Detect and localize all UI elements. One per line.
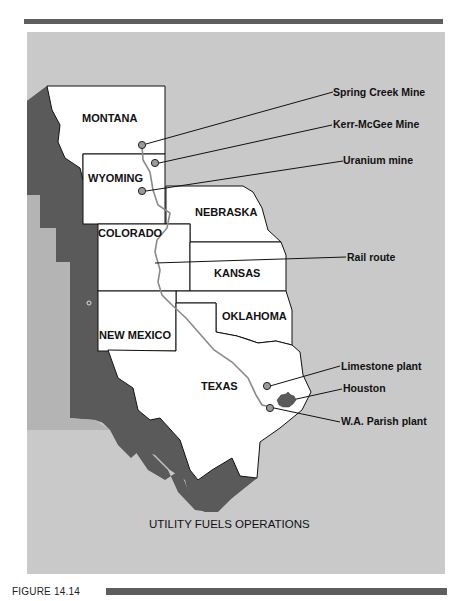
- leader-spring-creek: [146, 92, 333, 144]
- label-kansas: KANSAS: [214, 267, 260, 279]
- uranium-mine-marker: [138, 187, 145, 194]
- leader-kerr-mcgee: [159, 125, 332, 163]
- label-oklahoma: OKLAHOMA: [222, 310, 287, 322]
- label-wyoming: WYOMING: [88, 172, 143, 184]
- callout-spring-creek-mine: Spring Creek Mine: [333, 86, 425, 98]
- label-texas: TEXAS: [201, 380, 238, 392]
- bottom-rule: [106, 588, 447, 595]
- label-colorado: COLORADO: [98, 227, 163, 239]
- callout-limestone-plant: Limestone plant: [341, 360, 422, 372]
- callout-kerr-mcgee-mine: Kerr-McGee Mine: [333, 118, 420, 130]
- label-montana: MONTANA: [82, 112, 137, 124]
- callout-houston: Houston: [343, 382, 386, 394]
- wa-parish-plant-marker: [266, 404, 273, 411]
- utility-fuels-map: MONTANA WYOMING NEBRASKA COLORADO KANSAS…: [0, 0, 469, 601]
- label-new-mexico: NEW MEXICO: [99, 329, 172, 341]
- label-nebraska: NEBRASKA: [195, 206, 257, 218]
- figure-label: FIGURE 14.14: [12, 586, 80, 597]
- kerr-mcgee-mine-marker: [151, 159, 158, 166]
- callout-rail-route: Rail route: [347, 251, 396, 263]
- state-new-mexico: [98, 291, 176, 351]
- spring-creek-mine-marker: [138, 141, 145, 148]
- callout-wa-parish-plant: W.A. Parish plant: [341, 415, 427, 427]
- callout-uranium-mine: Uranium mine: [343, 154, 413, 166]
- limestone-plant-marker: [263, 382, 270, 389]
- map-title: UTILITY FUELS OPERATIONS: [149, 518, 310, 530]
